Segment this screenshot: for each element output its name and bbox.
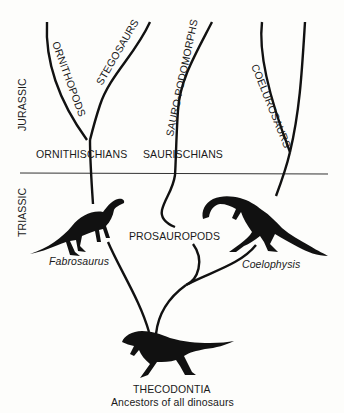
branch-fabrosaurus-to-root xyxy=(108,242,149,332)
dinosaur-evolution-diagram: JURASSIC TRIASSIC ORNITHOPODS STEGOSAURS… xyxy=(0,0,344,413)
root-label-description: Ancestors of all dinosaurs xyxy=(111,396,234,408)
branch-junction-to-root xyxy=(156,285,186,334)
period-label-triassic: TRIASSIC xyxy=(16,187,28,237)
group-label-prosauropods: PROSAUROPODS xyxy=(129,230,220,242)
genus-label-fabrosaurus: Fabrosaurus xyxy=(49,255,110,267)
period-label-jurassic: JURASSIC xyxy=(16,78,28,131)
coelophysis-silhouette xyxy=(202,196,328,256)
branch-coelurosaurs-right xyxy=(290,22,305,152)
thecodontia-silhouette xyxy=(122,331,234,378)
root-label-thecodontia: THECODONTIA xyxy=(133,383,211,395)
branch-label-sauropodomorphs: SAURO-PODOMORPHS xyxy=(163,18,200,137)
group-label-ornithischians: ORNITHISCHIANS xyxy=(36,148,127,160)
genus-label-coelophysis: Coelophysis xyxy=(242,258,301,270)
group-label-saurischians: SAURISCHIANS xyxy=(143,148,223,160)
branch-label-coelurosaurs: COELUROSAURS xyxy=(249,62,294,149)
